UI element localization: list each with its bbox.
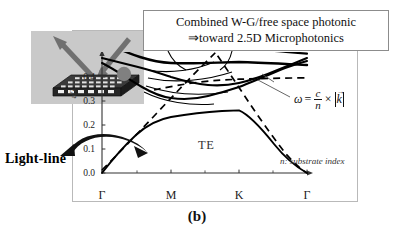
figure-root: Combined W-G/free space photonic ⇒toward… (0, 0, 394, 239)
operating-point-marker (117, 67, 131, 81)
ytick-4: 0.4 (83, 72, 95, 82)
equation-times: × (325, 92, 332, 107)
xtick-k: K (235, 188, 244, 203)
band-diagram-plot: 0.0 0.1 0.2 0.3 0.4 a/λ Γ M K Γ TE ω = c… (98, 52, 314, 185)
polarization-label: TE (198, 138, 214, 153)
equation-fraction: c n (313, 88, 323, 111)
xtick-gamma-left: Γ (99, 188, 106, 203)
equation-omega: ω (294, 92, 302, 107)
xtick-gamma-right: Γ (304, 188, 311, 203)
equation-denominator: n (313, 100, 323, 111)
callout-line-2: ⇒toward 2.5D Microphotonics (188, 31, 344, 47)
xtick-m: M (166, 188, 177, 203)
ytick-0: 0.0 (83, 168, 95, 178)
callout-line-1: Combined W-G/free space photonic (176, 15, 356, 31)
figure-caption: (b) (0, 208, 394, 225)
light-line-branch-3 (211, 52, 307, 173)
light-line-arrow-icon (60, 126, 150, 162)
equation-equals: = (304, 92, 311, 107)
equation-leader-line (258, 80, 290, 97)
vector-arrow-icon: → (337, 87, 345, 96)
y-axis-label: a/λ (68, 88, 78, 99)
light-line-callout: Light-line (5, 151, 66, 167)
ytick-3: 0.3 (83, 96, 95, 106)
free-space-beam-out-icon (53, 36, 93, 77)
substrate-index-note: n: substrate index (280, 156, 345, 166)
dispersion-equation: ω = c n × → k (294, 88, 344, 111)
callout-textbox: Combined W-G/free space photonic ⇒toward… (143, 10, 389, 51)
equation-k-vector: → k (335, 92, 344, 107)
